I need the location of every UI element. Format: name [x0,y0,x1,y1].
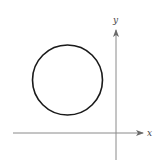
x-axis-label: x [147,128,152,138]
coordinate-plane-figure: x y [0,0,158,164]
y-axis-label: y [112,15,119,25]
plot-canvas: x y [0,0,158,164]
circle-graph [33,45,103,115]
